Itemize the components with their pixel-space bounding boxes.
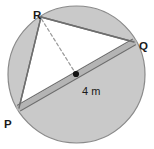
measure-label-4m: 4 m <box>82 85 100 97</box>
center-dot <box>73 71 79 77</box>
vertex-label-P: P <box>4 118 12 130</box>
circle-geometry-diagram: R Q P 4 m <box>0 0 154 149</box>
geometry-figure-container: R Q P 4 m <box>0 0 154 149</box>
vertex-label-R: R <box>33 9 42 21</box>
vertex-label-Q: Q <box>139 40 148 52</box>
